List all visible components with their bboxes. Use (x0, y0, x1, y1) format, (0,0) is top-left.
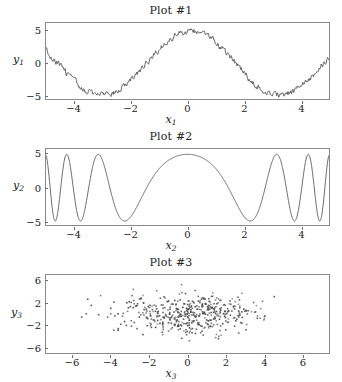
plot-1-xtick-mark (245, 101, 246, 104)
scatter-point (113, 301, 115, 303)
scatter-point (162, 331, 164, 333)
scatter-point (172, 327, 174, 329)
plot-1-axes (45, 22, 330, 100)
scatter-point (178, 317, 180, 319)
scatter-point (216, 311, 218, 313)
scatter-point (220, 316, 222, 318)
scatter-point (237, 296, 239, 298)
scatter-point (178, 329, 180, 331)
plot-1-ytick-label: 5 (7, 24, 41, 35)
scatter-point (187, 316, 189, 318)
scatter-point (222, 313, 224, 315)
scatter-point (179, 299, 181, 301)
scatter-point (184, 311, 186, 313)
scatter-point (187, 322, 189, 324)
scatter-point (218, 338, 220, 340)
scatter-point (193, 320, 195, 322)
scatter-point (213, 303, 215, 305)
scatter-point (149, 305, 151, 307)
plot-1-canvas (46, 23, 329, 99)
plot-1-title: Plot #1 (0, 4, 342, 17)
scatter-point (211, 307, 213, 309)
plot-2-ylabel: y2 (13, 179, 24, 193)
scatter-point (219, 319, 221, 321)
scatter-point (171, 317, 173, 319)
scatter-point (160, 319, 162, 321)
plot-1-ylabel: y1 (13, 53, 24, 67)
scatter-point (222, 323, 224, 325)
scatter-point (137, 303, 139, 305)
scatter-point (220, 325, 222, 327)
scatter-point (130, 306, 132, 308)
scatter-point (241, 311, 243, 313)
plot-3-xtick-mark (226, 355, 227, 358)
scatter-point (157, 313, 159, 315)
plot-3-scatter-points (81, 284, 275, 342)
scatter-point (213, 324, 215, 326)
scatter-point (81, 316, 83, 318)
scatter-point (246, 313, 248, 315)
scatter-point (156, 315, 158, 317)
scatter-point (175, 303, 177, 305)
scatter-point (117, 330, 119, 332)
scatter-point (196, 328, 198, 330)
scatter-point (183, 323, 185, 325)
plot-panel-3: Plot #3 62−2−6 −6−4−20246 y3 x3 (0, 252, 342, 382)
scatter-point (233, 317, 235, 319)
scatter-point (198, 300, 200, 302)
scatter-point (181, 322, 183, 324)
scatter-point (210, 320, 212, 322)
scatter-point (189, 319, 191, 321)
scatter-point (166, 301, 168, 303)
scatter-point (143, 302, 145, 304)
plot-3-ylabel: y3 (11, 306, 22, 320)
scatter-point (208, 325, 210, 327)
scatter-point (188, 322, 190, 324)
plot-3-xtick-mark (188, 355, 189, 358)
scatter-point (206, 319, 208, 321)
scatter-point (124, 321, 126, 323)
plot-3-canvas (46, 275, 329, 353)
scatter-point (205, 322, 207, 324)
scatter-point (151, 305, 153, 307)
scatter-point (149, 311, 151, 313)
scatter-point (177, 311, 179, 313)
scatter-point (165, 314, 167, 316)
scatter-point (205, 303, 207, 305)
plot-panel-1: Plot #1 50−5 −4−2024 y1 x1 (0, 0, 342, 128)
scatter-point (254, 311, 256, 313)
scatter-point (264, 318, 266, 320)
scatter-point (236, 318, 238, 320)
plot-2-xtick-mark (131, 227, 132, 230)
scatter-point (189, 313, 191, 315)
scatter-point (196, 319, 198, 321)
scatter-point (229, 300, 231, 302)
scatter-point (212, 292, 214, 294)
scatter-point (199, 309, 201, 311)
scatter-point (238, 311, 240, 313)
scatter-point (194, 312, 196, 314)
plot-2-line (46, 154, 329, 221)
scatter-point (215, 337, 217, 339)
scatter-point (185, 293, 187, 295)
scatter-point (122, 313, 124, 315)
scatter-point (136, 305, 138, 307)
scatter-point (190, 303, 192, 305)
scatter-point (199, 300, 201, 302)
scatter-point (169, 312, 171, 314)
scatter-point (146, 318, 148, 320)
plot-1-ytick-mark (45, 96, 48, 97)
scatter-point (231, 310, 233, 312)
scatter-point (187, 304, 189, 306)
scatter-point (160, 297, 162, 299)
scatter-point (257, 315, 259, 317)
scatter-point (230, 314, 232, 316)
scatter-point (184, 315, 186, 317)
scatter-point (198, 315, 200, 317)
scatter-point (216, 297, 218, 299)
scatter-point (191, 322, 193, 324)
scatter-point (179, 312, 181, 314)
scatter-point (201, 311, 203, 313)
scatter-point (163, 317, 165, 319)
plot-3-xtick-mark (149, 355, 150, 358)
